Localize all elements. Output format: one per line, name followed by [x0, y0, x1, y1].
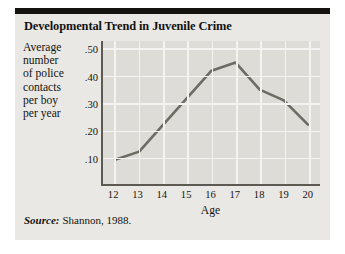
- x-tick-label: 12: [108, 189, 119, 200]
- y-tick-label: .10: [85, 153, 98, 164]
- figure-container: Developmental Trend in Juvenile Crime Av…: [15, 8, 330, 240]
- x-tick-label: 14: [157, 189, 168, 200]
- figure-title: Developmental Trend in Juvenile Crime: [24, 19, 232, 34]
- gridline-vertical: [236, 41, 238, 184]
- x-tick-label: 18: [254, 189, 265, 200]
- gridline-vertical: [187, 41, 189, 184]
- x-axis-ticks: 121314151617181920: [101, 189, 320, 203]
- x-tick-label: 17: [230, 189, 241, 200]
- gridline-vertical: [163, 41, 165, 184]
- x-tick-label: 19: [278, 189, 289, 200]
- gridline-vertical: [139, 41, 141, 184]
- y-tick-label: .30: [85, 98, 98, 109]
- source-label: Source:: [24, 214, 59, 226]
- gridline-vertical: [309, 41, 311, 184]
- source-note: Source:Shannon, 1988.: [24, 214, 131, 226]
- x-axis-title: Age: [101, 204, 320, 217]
- y-axis-ticks: .10.20.30.40.50: [77, 41, 99, 186]
- x-tick-label: 20: [303, 189, 314, 200]
- y-tick-label: .20: [85, 126, 98, 137]
- chart-panel: [101, 41, 320, 186]
- figure-top-rule: [15, 8, 330, 14]
- x-tick-label: 16: [205, 189, 216, 200]
- x-tick-label: 13: [132, 189, 143, 200]
- gridline-vertical: [260, 41, 262, 184]
- gridline-vertical: [212, 41, 214, 184]
- gridline-vertical: [114, 41, 116, 184]
- source-citation: Shannon, 1988.: [62, 214, 131, 226]
- x-tick-label: 15: [181, 189, 192, 200]
- y-tick-label: .40: [85, 71, 98, 82]
- plot-area: .10.20.30.40.50 121314151617181920 Age: [77, 41, 320, 201]
- gridline-vertical: [285, 41, 287, 184]
- y-tick-label: .50: [85, 44, 98, 55]
